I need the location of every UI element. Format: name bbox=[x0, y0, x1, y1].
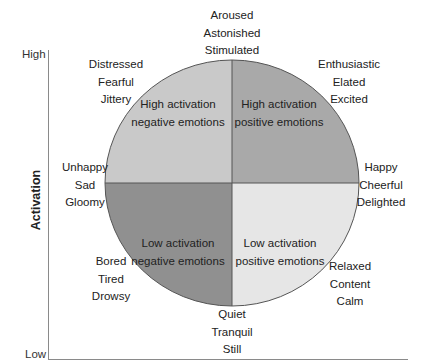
quadrant-label-line: Low activation bbox=[131, 235, 224, 253]
emotion-word: Delighted bbox=[357, 194, 406, 212]
emotion-group-right: Happy Cheerful Delighted bbox=[357, 159, 406, 212]
emotion-word: Enthusiastic bbox=[318, 56, 380, 74]
quadrant-label-line: High activation bbox=[131, 96, 224, 114]
emotion-word: Stimulated bbox=[204, 42, 261, 60]
emotion-group-top: Aroused Astonished Stimulated bbox=[204, 7, 261, 60]
emotion-word: Content bbox=[329, 276, 371, 294]
emotion-group-bottom-right: Relaxed Content Calm bbox=[329, 258, 371, 311]
emotion-word: Elated bbox=[318, 74, 380, 92]
quadrant-label-line: positive emotions bbox=[235, 114, 324, 132]
emotion-word: Tired bbox=[92, 271, 130, 289]
emotion-word: Quiet bbox=[211, 306, 252, 324]
emotion-word: Jittery bbox=[89, 91, 143, 109]
quadrant-label-line: Low activation bbox=[236, 235, 325, 253]
quadrant-label-low-positive: Low activation positive emotions bbox=[236, 235, 325, 270]
emotion-group-left: Unhappy Sad Gloomy bbox=[62, 159, 108, 212]
activation-circumplex-diagram: High Low Activation High activation nega… bbox=[0, 0, 429, 362]
emotion-word: Drowsy bbox=[92, 288, 130, 306]
quadrant-label-high-negative: High activation negative emotions bbox=[131, 96, 224, 131]
emotion-word: Relaxed bbox=[329, 258, 371, 276]
emotion-group-bottom-left: Bored Tired Drowsy bbox=[92, 253, 130, 306]
emotion-word: Tranquil bbox=[211, 324, 252, 342]
emotion-word: Unhappy bbox=[62, 159, 108, 177]
emotion-word: Sad bbox=[62, 177, 108, 195]
emotion-word: Aroused bbox=[204, 7, 261, 25]
emotion-word: Fearful bbox=[89, 74, 143, 92]
emotion-word: Excited bbox=[318, 91, 380, 109]
emotion-group-top-left: Distressed Fearful Jittery bbox=[89, 56, 143, 109]
emotion-word: Gloomy bbox=[62, 194, 108, 212]
emotion-word: Calm bbox=[329, 293, 371, 311]
emotion-word: Cheerful bbox=[357, 177, 406, 195]
emotion-word: Bored bbox=[92, 253, 130, 271]
quadrant-label-high-positive: High activation positive emotions bbox=[235, 96, 324, 131]
quadrant-label-line: negative emotions bbox=[131, 253, 224, 271]
emotion-word: Astonished bbox=[204, 25, 261, 43]
emotion-group-top-right: Enthusiastic Elated Excited bbox=[318, 56, 380, 109]
emotion-word: Distressed bbox=[89, 56, 143, 74]
quadrant-label-low-negative: Low activation negative emotions bbox=[131, 235, 224, 270]
quadrant-label-line: High activation bbox=[235, 96, 324, 114]
emotion-group-bottom: Quiet Tranquil Still bbox=[211, 306, 252, 359]
emotion-word: Still bbox=[211, 341, 252, 359]
quadrant-label-line: positive emotions bbox=[236, 253, 325, 271]
emotion-word: Happy bbox=[357, 159, 406, 177]
quadrant-label-line: negative emotions bbox=[131, 114, 224, 132]
